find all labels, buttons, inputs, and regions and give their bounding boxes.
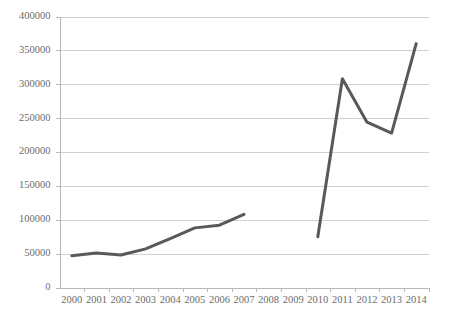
y-tick-label: 300000	[19, 78, 51, 89]
series-line-segment-2010-2014	[318, 44, 416, 237]
y-tick-label: 350000	[19, 44, 51, 55]
y-axis-tick-marks	[56, 18, 60, 289]
y-tick-label: 250000	[19, 112, 51, 123]
x-tick-label: 2003	[135, 294, 156, 305]
y-tick-label: 0	[45, 281, 50, 292]
x-tick-label: 2012	[357, 294, 378, 305]
x-tick-label: 2006	[209, 294, 230, 305]
y-tick-label: 100000	[19, 213, 51, 224]
x-tick-label: 2000	[61, 294, 82, 305]
x-tick-label: 2007	[234, 294, 255, 305]
x-tick-label: 2011	[332, 294, 353, 305]
gridlines	[60, 18, 429, 289]
x-tick-label: 2009	[283, 294, 304, 305]
data-series-group	[72, 44, 416, 256]
chart-canvas: 0500001000001500002000002500003000003500…	[0, 0, 450, 318]
x-tick-label: 2005	[184, 294, 205, 305]
y-tick-label: 50000	[24, 247, 50, 258]
x-tick-label: 2014	[406, 294, 428, 305]
y-tick-label: 400000	[19, 10, 51, 21]
y-axis-tick-labels: 0500001000001500002000002500003000003500…	[19, 10, 51, 292]
y-tick-label: 150000	[19, 179, 51, 190]
line-chart: 0500001000001500002000002500003000003500…	[0, 0, 450, 318]
x-axis-tick-labels: 2000200120022003200420052006200720082009…	[61, 294, 427, 305]
x-tick-label: 2008	[258, 294, 279, 305]
x-tick-label: 2004	[160, 294, 182, 305]
x-tick-label: 2001	[86, 294, 107, 305]
y-tick-label: 200000	[19, 145, 51, 156]
x-tick-label: 2002	[111, 294, 132, 305]
x-tick-label: 2010	[307, 294, 328, 305]
x-tick-label: 2013	[381, 294, 402, 305]
